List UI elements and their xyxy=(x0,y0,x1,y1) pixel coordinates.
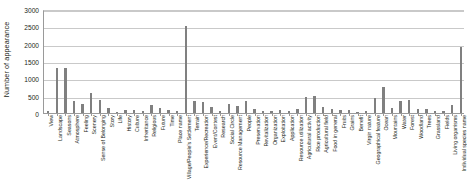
x-tick-label: Mountains xyxy=(393,115,398,139)
x-tick-label: Research xyxy=(221,115,226,138)
y-tick-label: 3000 xyxy=(24,7,39,14)
y-tick-label: 0 xyxy=(35,111,39,118)
x-tick-label: Fields xyxy=(445,115,450,129)
x-axis-line xyxy=(44,113,464,114)
x-tick-label: Water xyxy=(402,115,407,129)
x-tick-label: Scenery xyxy=(92,115,97,134)
bar xyxy=(56,68,58,113)
x-tick-label: Forest xyxy=(410,115,415,130)
bar-chart: Number of appearance 0500100015002000250… xyxy=(0,0,467,194)
bar xyxy=(313,96,315,113)
x-tick-label: Individual species name xyxy=(462,115,467,172)
y-tick-label: 2500 xyxy=(24,24,39,31)
x-tick-label: Virgin nature xyxy=(367,115,372,145)
bar xyxy=(150,105,152,113)
x-tick-label: History xyxy=(127,115,132,131)
x-tick-label: Application xyxy=(290,115,295,141)
x-tick-label: Benefit xyxy=(359,115,364,132)
bar xyxy=(73,101,75,113)
x-tick-label: Organization xyxy=(273,115,278,145)
x-tick-label: Village/People's Settlement xyxy=(187,115,192,179)
x-tick-label: Atmosphere xyxy=(75,115,80,144)
x-tick-label: Life xyxy=(118,115,123,124)
x-tick-label: Sense of Belonging xyxy=(101,115,106,161)
bar xyxy=(399,101,401,113)
bar xyxy=(90,93,92,113)
x-tick-label: Trees xyxy=(427,115,432,128)
y-axis-tick-labels: 050010001500200025003000 xyxy=(12,10,41,114)
x-tick-label: Agricultural activity xyxy=(307,115,312,159)
bar xyxy=(64,68,66,113)
x-tick-label: Grains xyxy=(350,115,355,131)
bar xyxy=(245,101,247,113)
bar xyxy=(451,105,453,113)
bar xyxy=(193,101,195,113)
plot-area xyxy=(43,10,464,114)
x-tick-label: Revitalization xyxy=(264,115,269,147)
x-tick-label: Agricultural field xyxy=(324,115,329,153)
y-tick-label: 2000 xyxy=(24,41,39,48)
x-tick-label: Resource Management xyxy=(238,115,243,170)
x-tick-label: People xyxy=(247,115,252,132)
x-tick-label: Preservation xyxy=(256,115,261,145)
bar xyxy=(374,98,376,113)
x-tick-label: Time xyxy=(170,115,175,127)
bar xyxy=(202,102,204,113)
x-tick-label: Grassland xyxy=(436,115,441,139)
bar xyxy=(99,100,101,113)
x-tick-label: Living organisms xyxy=(453,115,458,155)
y-axis-title-text: Number of appearance xyxy=(3,21,12,97)
x-tick-label: Food in general xyxy=(333,115,338,152)
x-tick-label: Seasons xyxy=(67,115,72,136)
x-tick-label: Fruits xyxy=(342,115,347,128)
bar xyxy=(460,47,462,113)
x-tick-label: Event/Contest xyxy=(213,115,218,148)
bar xyxy=(408,100,410,113)
x-tick-label: Geographical feature xyxy=(376,115,381,164)
y-tick-label: 1000 xyxy=(24,76,39,83)
x-tick-label: Culture xyxy=(135,115,140,132)
bar xyxy=(228,104,230,113)
bar-series xyxy=(44,11,464,113)
x-tick-label: Landscape xyxy=(58,115,63,141)
bar xyxy=(185,26,187,113)
x-tick-label: Future xyxy=(161,115,166,130)
x-tick-label: Experience/Recreation xyxy=(204,115,209,169)
x-tick-label: Woodland xyxy=(419,115,424,139)
x-tick-label: Terrain xyxy=(195,115,200,131)
x-axis-tick-labels: ViewLandscapeSeasonsAtmosphereFeelingSce… xyxy=(43,115,464,194)
x-tick-label: View xyxy=(49,115,54,126)
x-tick-label: Ocean xyxy=(384,115,389,131)
y-tick-label: 500 xyxy=(28,93,39,100)
x-tick-label: Rice production xyxy=(316,115,321,152)
x-tick-label: Inheritance xyxy=(144,115,149,141)
bar xyxy=(305,97,307,113)
x-tick-label: Feeling xyxy=(84,115,89,132)
bar xyxy=(81,104,83,113)
x-tick-label: Story xyxy=(110,115,115,127)
x-tick-label: Place name xyxy=(178,115,183,143)
x-tick-label: Religious xyxy=(152,115,157,137)
bar xyxy=(236,106,238,113)
x-tick-label: Exploitation xyxy=(281,115,286,142)
y-tick-label: 1500 xyxy=(24,59,39,66)
x-tick-label: Resource utilization xyxy=(299,115,304,161)
bar xyxy=(382,87,384,113)
x-tick-label: Social Circle xyxy=(230,115,235,144)
